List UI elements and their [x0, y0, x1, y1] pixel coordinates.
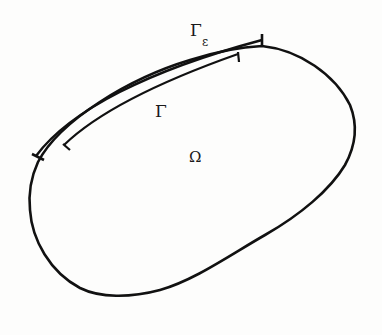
label-gamma-epsilon-main: Γ [190, 20, 202, 40]
omega-boundary [29, 46, 354, 296]
label-gamma-epsilon-sub: ε [202, 36, 208, 48]
label-gamma: Γ [155, 103, 167, 120]
domain-diagram: Γ ε Γ Ω [0, 0, 382, 335]
domain-drawing [0, 0, 382, 335]
label-omega: Ω [189, 150, 201, 165]
gamma-eps-inner-line [64, 54, 238, 145]
gamma-end-tick-right [238, 52, 239, 62]
label-gamma-epsilon: Γ ε [190, 22, 202, 39]
gamma-end-tick-left [63, 144, 70, 150]
